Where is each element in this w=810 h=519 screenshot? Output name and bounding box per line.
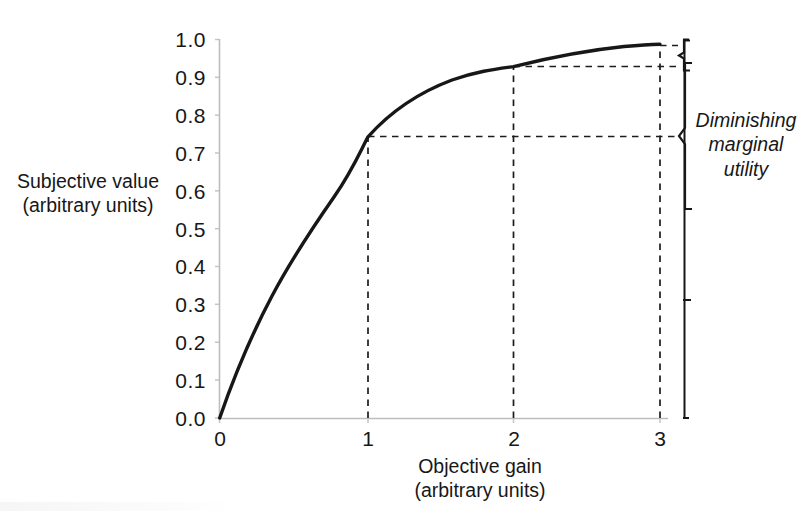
figure-canvas: 1.0 0.9 0.8 0.7 0.6 0.5 0.4 0.3 0.2 0.1 …: [0, 0, 810, 519]
y-axis-title: Subjective value (arbitrary units): [8, 170, 168, 218]
y-axis-ticks: [215, 40, 219, 419]
x-tick-label: 0: [200, 428, 240, 449]
y-tick-label: 0.9: [148, 67, 206, 88]
y-tick-label: 0.2: [148, 332, 206, 353]
y-tick-label: 0.0: [148, 408, 206, 429]
annotation-line2: marginal: [686, 132, 806, 156]
y-tick-label: 0.5: [148, 219, 206, 240]
y-tick-label: 0.1: [148, 370, 206, 391]
x-tick-label: 2: [494, 428, 534, 449]
y-axis-title-line1: Subjective value: [8, 170, 168, 194]
utility-curve: [220, 44, 660, 418]
reference-guides: [368, 46, 678, 419]
y-tick-label: 0.4: [148, 256, 206, 277]
x-tick-label: 1: [348, 428, 388, 449]
x-tick-label: 3: [640, 428, 680, 449]
right-range-bracket: [683, 40, 691, 419]
y-tick-label: 0.8: [148, 105, 206, 126]
x-axis-title: Objective gain (arbitrary units): [370, 455, 590, 503]
x-axis-title-line1: Objective gain: [370, 455, 590, 479]
scan-edge-artifact: [0, 502, 240, 511]
y-tick-label: 1.0: [148, 29, 206, 50]
utility-curve-plot: [0, 0, 810, 519]
y-axis-title-line2: (arbitrary units): [8, 194, 168, 218]
diminishing-marginal-utility-annotation: Diminishing marginal utility: [686, 108, 806, 181]
x-axis-title-line2: (arbitrary units): [370, 479, 590, 503]
y-tick-label: 0.7: [148, 143, 206, 164]
annotation-line1: Diminishing: [686, 108, 806, 132]
annotation-line3: utility: [686, 157, 806, 181]
y-tick-label: 0.3: [148, 294, 206, 315]
